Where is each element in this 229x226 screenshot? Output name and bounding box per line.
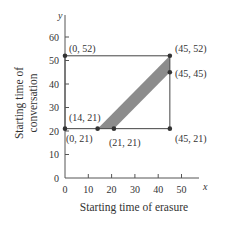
data-point xyxy=(168,126,173,131)
x-variable-label: x xyxy=(202,181,208,192)
x-tick-label: 20 xyxy=(107,184,117,195)
point-label: (0, 52) xyxy=(69,43,96,55)
point-label: (45, 21) xyxy=(175,133,207,145)
y-tick-label: 30 xyxy=(49,102,59,113)
data-point xyxy=(168,54,173,59)
x-tick-label: 10 xyxy=(83,184,93,195)
y-tick-label: 60 xyxy=(49,32,59,43)
point-label: (45, 45) xyxy=(175,68,207,80)
data-point xyxy=(63,126,68,131)
y-tick-label: 40 xyxy=(49,79,59,90)
data-point xyxy=(95,126,100,131)
y-variable-label: y xyxy=(57,10,63,21)
point-label: (14, 21) xyxy=(69,112,101,124)
chart-figure: 010203040500102030405060xyStarting time … xyxy=(0,0,229,226)
point-label: (21, 21) xyxy=(109,137,141,149)
data-point xyxy=(63,54,68,59)
data-point xyxy=(112,126,117,131)
point-label: (0, 21) xyxy=(66,133,93,145)
x-tick-label: 30 xyxy=(130,184,140,195)
y-tick-label: 50 xyxy=(49,55,59,66)
data-point xyxy=(168,70,173,75)
x-tick-label: 0 xyxy=(63,184,68,195)
y-tick-label: 0 xyxy=(54,173,59,184)
chart-canvas: 010203040500102030405060xyStarting time … xyxy=(0,0,229,226)
y-axis-title-line1: Starting time of xyxy=(13,67,26,139)
y-tick-label: 20 xyxy=(49,126,59,137)
point-label: (45, 52) xyxy=(175,43,207,55)
y-axis-title-line2: conversation xyxy=(27,73,39,132)
x-tick-label: 40 xyxy=(153,184,163,195)
x-axis-title: Starting time of erasure xyxy=(80,201,188,214)
shaded-band xyxy=(98,56,170,129)
y-tick-label: 10 xyxy=(49,149,59,160)
x-tick-label: 50 xyxy=(177,184,187,195)
